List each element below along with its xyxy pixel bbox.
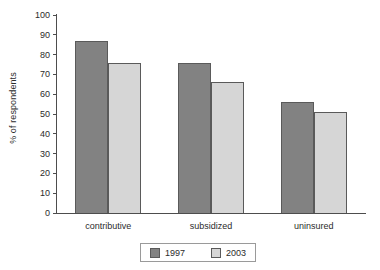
- y-axis-tick-label: 40: [40, 129, 50, 139]
- y-axis-tick: 70: [40, 69, 57, 79]
- x-axis-category-label: uninsured: [294, 221, 334, 231]
- y-axis-tick: 50: [40, 109, 57, 119]
- y-axis-tick-label: 0: [45, 208, 50, 218]
- y-axis-tick: 0: [45, 208, 57, 218]
- y-axis-title: % of respondents: [4, 0, 22, 215]
- bar-subsidized-1997: [178, 63, 211, 213]
- y-axis-tick: 30: [40, 149, 57, 159]
- chart-legend: 19972003: [140, 243, 256, 262]
- y-axis-tick: 80: [40, 50, 57, 60]
- bar-uninsured-1997: [281, 102, 314, 213]
- legend-swatch-1997: [150, 248, 160, 258]
- bar-contributive-1997: [75, 41, 108, 213]
- y-axis-tick-label: 30: [40, 149, 50, 159]
- y-axis-tick-label: 70: [40, 69, 50, 79]
- y-axis-tick-label: 10: [40, 188, 50, 198]
- y-axis-tick: 40: [40, 129, 57, 139]
- y-axis-tick: 90: [40, 30, 57, 40]
- y-axis-tick-label: 80: [40, 50, 50, 60]
- x-axis-line: [56, 213, 366, 214]
- bar-group: [262, 15, 365, 213]
- y-axis-tick: 20: [40, 168, 57, 178]
- y-axis-tick: 10: [40, 188, 57, 198]
- y-axis-tick-label: 100: [35, 10, 50, 20]
- y-axis-tick: 60: [40, 89, 57, 99]
- legend-label-2003: 2003: [226, 248, 246, 258]
- y-axis-tick-label: 20: [40, 168, 50, 178]
- x-axis-category-label: contributive: [85, 221, 131, 231]
- x-axis-category-label: subsidized: [190, 221, 233, 231]
- y-axis-tick-label: 50: [40, 109, 50, 119]
- plot-area: 0102030405060708090100: [57, 15, 365, 213]
- bar-group: [160, 15, 263, 213]
- y-axis-tick: 100: [35, 10, 57, 20]
- y-axis-tick-label: 60: [40, 89, 50, 99]
- bar-uninsured-2003: [314, 112, 347, 213]
- y-axis-tick-label: 90: [40, 30, 50, 40]
- legend-label-1997: 1997: [165, 248, 185, 258]
- y-axis-title-label: % of respondents: [8, 72, 18, 144]
- legend-swatch-2003: [211, 248, 221, 258]
- legend-entry-1997: 1997: [150, 248, 185, 258]
- legend-entry-2003: 2003: [211, 248, 246, 258]
- bar-chart: % of respondents 0102030405060708090100 …: [0, 0, 380, 270]
- bar-subsidized-2003: [211, 82, 244, 213]
- bar-contributive-2003: [108, 63, 141, 213]
- bar-group: [57, 15, 160, 213]
